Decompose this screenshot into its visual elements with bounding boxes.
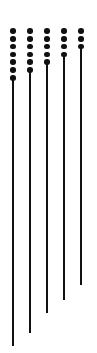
stem-column (73, 0, 89, 353)
stem-dot (78, 36, 84, 42)
chart-figure (0, 0, 97, 353)
plot-area (0, 0, 97, 353)
stem-dot (10, 36, 16, 42)
stem-dot (27, 67, 33, 73)
stem-dot (44, 59, 50, 65)
stem-dot (61, 36, 67, 42)
stem-line (80, 47, 82, 285)
stem-dot (27, 52, 33, 58)
stem-line (29, 70, 31, 333)
stem-dot (10, 28, 16, 34)
stem-dot (61, 44, 67, 50)
stem-dot (27, 36, 33, 42)
stem-column (5, 0, 21, 353)
stem-dot (10, 44, 16, 50)
stem-dot (10, 59, 16, 65)
stem-dot (10, 75, 16, 81)
stem-dot (27, 44, 33, 50)
stem-line (12, 78, 14, 346)
stem-dot (78, 44, 84, 50)
stem-dot (27, 28, 33, 34)
stem-dot (44, 44, 50, 50)
stem-dot (44, 28, 50, 34)
stem-dot (10, 52, 16, 58)
stem-dot (27, 59, 33, 65)
stem-dot (61, 52, 67, 58)
stem-dot (61, 28, 67, 34)
stem-line (46, 63, 48, 313)
stem-column (22, 0, 38, 353)
stem-line (63, 55, 65, 300)
stem-column (39, 0, 55, 353)
stem-dot (10, 67, 16, 73)
stem-dot (78, 28, 84, 34)
stem-dot (44, 52, 50, 58)
stem-dot (44, 36, 50, 42)
stem-column (56, 0, 72, 353)
